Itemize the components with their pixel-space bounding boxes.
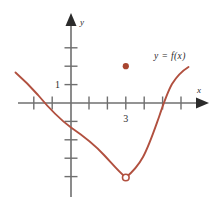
y-axis: y 1 <box>55 13 84 197</box>
filled-point-marker <box>123 63 129 69</box>
function-graph-figure: x 3 y 1 y = f( <box>0 0 217 205</box>
y-tick-label-1: 1 <box>55 79 60 90</box>
open-point-marker <box>123 174 130 181</box>
x-tick-label-3: 3 <box>123 113 128 124</box>
y-axis-arrowhead <box>66 13 77 26</box>
x-axis-arrowhead <box>196 98 209 109</box>
x-axis-label: x <box>196 85 201 95</box>
function-curve-group <box>16 67 189 178</box>
function-curve-right-branch <box>126 67 189 178</box>
graph-canvas: x 3 y 1 y = f( <box>0 0 217 205</box>
y-axis-label: y <box>79 17 84 27</box>
curve-label: y = f(x) <box>153 51 186 62</box>
